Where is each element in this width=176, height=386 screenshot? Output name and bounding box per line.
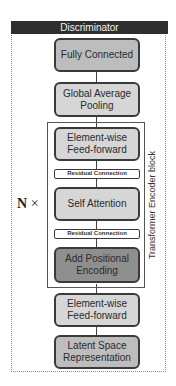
positional-encoding-layer: Add Positional Encoding [54,247,140,283]
input-feed-forward-layer: Element-wise Feed-forward [54,293,140,327]
global-average-pooling-layer: Global Average Pooling [54,82,140,117]
discriminator-title: Discriminator [11,21,168,34]
self-attention-layer: Self Attention [54,187,140,221]
latent-space-layer: Latent Space Representation [54,335,140,369]
transformer-encoder-label: Transformer Encoder block [147,151,157,259]
residual-connection-bottom: Residual Connection [54,229,140,239]
connector [96,72,97,82]
residual-connection-top: Residual Connection [54,169,140,179]
repeat-n-label: N × [17,196,39,212]
connector [96,327,97,335]
encoder-feed-forward-layer: Element-wise Feed-forward [54,127,140,161]
fully-connected-layer: Fully Connected [54,38,140,72]
